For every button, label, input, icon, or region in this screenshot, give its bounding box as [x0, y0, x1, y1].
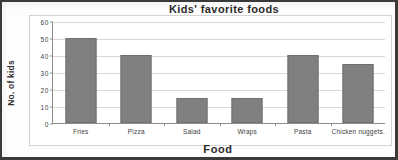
x-tick-label: Wraps: [218, 128, 276, 136]
x-tick-mark: [275, 123, 276, 126]
bar: [343, 64, 374, 124]
bar-group: Wraps: [220, 22, 276, 123]
x-tick-label: Pizza: [107, 128, 165, 136]
y-tick-label: 10: [41, 104, 49, 111]
bar: [121, 55, 152, 123]
x-tick-label: Salad: [163, 128, 221, 136]
y-tick-label: 40: [41, 53, 49, 60]
x-tick-mark: [331, 123, 332, 126]
x-tick-mark: [109, 123, 110, 126]
x-tick-label: Fries: [52, 128, 110, 136]
bar-group: Pizza: [109, 22, 165, 123]
x-tick-mark: [220, 123, 221, 126]
chart-title: Kids' favorite foods: [94, 3, 354, 15]
y-tick-label: 60: [41, 19, 49, 26]
y-tick-label: 0: [45, 121, 49, 128]
bar: [176, 98, 207, 124]
y-tick-mark: [50, 124, 53, 125]
chart-page: Kids' favorite foods No. of kids 0102030…: [0, 0, 398, 160]
y-tick-label: 20: [41, 87, 49, 94]
plot-area: 0102030405060FriesPizzaSaladWrapsPastaCh…: [52, 22, 385, 124]
bar: [287, 55, 318, 123]
x-tick-mark: [164, 123, 165, 126]
x-tick-label: Pasta: [274, 128, 332, 136]
bar: [232, 98, 263, 124]
y-axis-title: No. of kids: [4, 44, 18, 122]
bar-group: Fries: [53, 22, 109, 123]
y-tick-label: 50: [41, 36, 49, 43]
bar-group: Salad: [164, 22, 220, 123]
bar: [65, 38, 96, 123]
bar-group: Pasta: [275, 22, 331, 123]
y-tick-label: 30: [41, 70, 49, 77]
x-axis-title: Food: [52, 143, 384, 155]
bar-group: Chicken nuggets.: [331, 22, 387, 123]
x-tick-label: Chicken nuggets.: [329, 128, 387, 136]
y-axis-title-label: No. of kids: [6, 60, 16, 106]
